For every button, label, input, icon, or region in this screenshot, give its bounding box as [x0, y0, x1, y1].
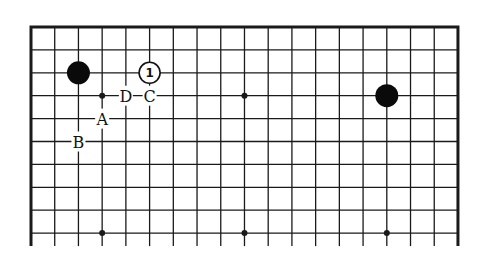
black-stone-icon: [67, 61, 90, 84]
white-stone: 1: [139, 62, 160, 83]
black-stone: [67, 61, 90, 84]
point-label-c: C: [143, 86, 157, 106]
point-label-b: B: [71, 132, 85, 152]
go-board-diagram: DCAB 1: [0, 0, 483, 266]
label-text: C: [143, 87, 155, 106]
star-point-icon: [241, 230, 247, 236]
black-stone-icon: [375, 84, 398, 107]
label-text: D: [119, 87, 132, 106]
point-label-a: A: [95, 109, 109, 129]
black-stone: [375, 84, 398, 107]
move-number: 1: [145, 66, 153, 80]
star-point-icon: [241, 93, 247, 99]
label-text: A: [95, 110, 108, 129]
grid-lines: [31, 27, 458, 246]
star-point-icon: [99, 93, 105, 99]
label-text: B: [73, 133, 85, 152]
point-label-d: D: [119, 86, 133, 106]
star-point-icon: [384, 230, 390, 236]
stones: 1: [67, 61, 398, 107]
star-point-icon: [99, 230, 105, 236]
